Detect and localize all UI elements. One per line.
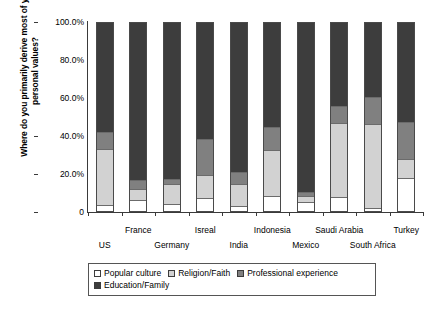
bar-segment <box>130 200 146 211</box>
bar-segment <box>331 123 347 197</box>
bar-segment <box>97 132 113 149</box>
bar-segment <box>97 23 113 132</box>
bar-segment <box>264 196 280 211</box>
chart-legend: Popular cultureReligion/FaithProfessiona… <box>88 263 376 296</box>
bar-segment <box>231 23 247 172</box>
y-axis-tick-label: 60.0% <box>38 93 84 103</box>
bar-us <box>96 22 114 212</box>
y-axis-tick-label: 80.0% <box>38 55 84 65</box>
plot-area: 100.0%80.0%60.0%40.0%20.0%0 <box>88 22 423 212</box>
x-axis-label: India <box>230 240 248 250</box>
y-axis-tick-mark <box>34 212 38 213</box>
x-axis-tick-mark <box>88 212 89 216</box>
x-axis-tick-mark <box>289 212 290 216</box>
x-axis-tick-mark <box>356 212 357 216</box>
y-axis-tick-label: 20.0% <box>38 169 84 179</box>
x-axis-label: Turkey <box>393 225 419 235</box>
legend-label: Education/Family <box>104 279 169 291</box>
bar-segment <box>365 208 381 211</box>
x-axis-label: Saudi Arabia <box>315 225 363 235</box>
bar-segment <box>264 150 280 196</box>
y-axis-tick-label: 40.0% <box>38 131 84 141</box>
legend-swatch-icon <box>94 270 101 277</box>
bar-segment <box>231 206 247 211</box>
bar-segment <box>164 23 180 179</box>
bar-segment <box>264 23 280 127</box>
bar-segment <box>97 205 113 211</box>
bar-segment <box>365 97 381 124</box>
y-axis-tick-mark <box>34 174 38 175</box>
bar-germany <box>163 22 181 212</box>
bar-segment <box>264 127 280 150</box>
bar-segment <box>197 139 213 176</box>
bar-segment <box>331 23 347 106</box>
bar-france <box>129 22 147 212</box>
x-axis-tick-mark <box>256 212 257 216</box>
bar-segment <box>298 202 314 211</box>
bar-isreal <box>196 22 214 212</box>
bar-segment <box>365 124 381 208</box>
legend-swatch-icon <box>237 270 244 277</box>
bar-segment <box>398 23 414 122</box>
x-axis-label: South Africa <box>350 240 396 250</box>
bar-segment <box>398 178 414 211</box>
y-axis-tick-label: 0 <box>38 207 84 217</box>
bar-segment <box>197 175 213 198</box>
x-axis-label: Isreal <box>195 225 216 235</box>
y-axis-tick-mark <box>34 136 38 137</box>
bar-segment <box>398 159 414 179</box>
bar-segment <box>97 149 113 205</box>
bar-india <box>230 22 248 212</box>
bar-segment <box>298 23 314 192</box>
bar-segment <box>331 197 347 211</box>
bar-segment <box>231 184 247 206</box>
bar-segment <box>164 204 180 211</box>
legend-items: Popular cultureReligion/FaithProfessiona… <box>94 267 370 291</box>
legend-label: Popular culture <box>104 267 161 279</box>
bar-saudi-arabia <box>330 22 348 212</box>
legend-item[interactable]: Popular culture <box>94 267 161 279</box>
x-axis-tick-mark <box>390 212 391 216</box>
bar-south-africa <box>364 22 382 212</box>
legend-swatch-icon <box>168 270 175 277</box>
x-axis-tick-mark <box>323 212 324 216</box>
stacked-bar-chart: Where do you primarily derive most of yo… <box>0 0 433 314</box>
x-axis-label: Indonesia <box>254 225 291 235</box>
bar-segment <box>197 198 213 211</box>
y-axis-tick-mark <box>34 98 38 99</box>
bar-segment <box>231 172 247 185</box>
legend-label: Religion/Faith <box>178 267 230 279</box>
x-axis-label: US <box>99 240 111 250</box>
y-axis-tick-label: 100.0% <box>38 17 84 27</box>
bar-segment <box>130 23 146 180</box>
bar-segment <box>365 23 381 97</box>
x-axis-label: Mexico <box>292 240 319 250</box>
bar-mexico <box>297 22 315 212</box>
bar-segment <box>398 122 414 159</box>
bar-segment <box>130 189 146 200</box>
y-axis-tick-mark <box>34 60 38 61</box>
legend-label: Professional experience <box>247 267 338 279</box>
x-axis-tick-mark <box>423 212 424 216</box>
x-axis-tick-mark <box>122 212 123 216</box>
x-axis-tick-mark <box>222 212 223 216</box>
y-axis-tick-mark <box>34 22 38 23</box>
bar-indonesia <box>263 22 281 212</box>
legend-item[interactable]: Education/Family <box>94 279 169 291</box>
bar-segment <box>130 180 146 189</box>
bar-turkey <box>397 22 415 212</box>
x-axis-tick-mark <box>155 212 156 216</box>
x-axis-tick-mark <box>189 212 190 216</box>
x-axis-label: France <box>125 225 151 235</box>
legend-item[interactable]: Professional experience <box>237 267 338 279</box>
bar-segment <box>197 23 213 139</box>
bar-segment <box>164 184 180 204</box>
bar-segment <box>331 106 347 123</box>
x-axis-label: Germany <box>154 240 189 250</box>
legend-item[interactable]: Religion/Faith <box>168 267 230 279</box>
legend-swatch-icon <box>94 282 101 289</box>
